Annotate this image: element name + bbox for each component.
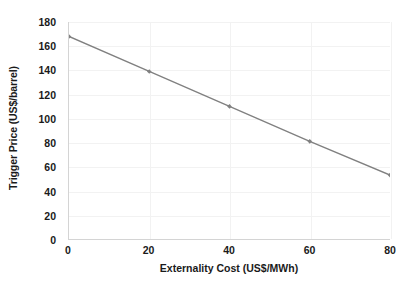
y-axis-title-text: Trigger Price (US$/barrel) [7,65,19,189]
y-tick-label: 180 [38,16,56,28]
data-point-marker [307,139,312,144]
chart-container: Trigger Price (US$/barrel) 0204060801001… [0,0,416,291]
x-tick-label: 60 [304,244,316,256]
plot-area [68,22,390,240]
x-axis-tick-labels: 020406080 [68,244,390,260]
y-axis-title: Trigger Price (US$/barrel) [0,0,26,255]
y-tick-label: 120 [38,89,56,101]
data-point-marker [388,173,390,178]
y-tick-label: 0 [50,234,56,246]
y-tick-label: 60 [44,161,56,173]
y-tick-label: 40 [44,186,56,198]
x-axis-title: Externality Cost (US$/MWh) [68,262,390,274]
data-point-marker [227,104,232,109]
data-point-marker [147,69,152,74]
y-tick-label: 140 [38,64,56,76]
x-tick-label: 0 [65,244,71,256]
series-layer [69,22,390,239]
y-tick-label: 160 [38,40,56,52]
y-axis-tick-labels: 020406080100120140160180 [26,22,62,240]
gridline-vertical [391,22,392,239]
y-tick-label: 80 [44,137,56,149]
x-tick-label: 40 [223,244,235,256]
y-tick-label: 100 [38,113,56,125]
y-tick-label: 20 [44,210,56,222]
x-tick-label: 80 [384,244,396,256]
series-svg [69,22,390,239]
x-tick-label: 20 [143,244,155,256]
